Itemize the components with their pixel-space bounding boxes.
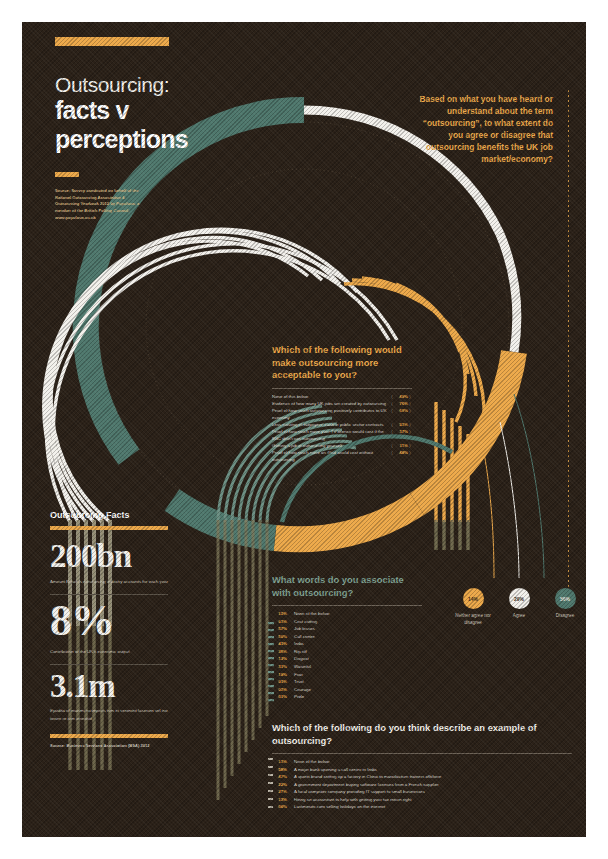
question-2-row: 31%Wasteful <box>272 663 422 671</box>
row-label: Evidence of how many UK jobs are created… <box>272 400 390 407</box>
fact-number-3: 3.1m <box>50 669 168 704</box>
row-percent: 13% <box>272 655 287 663</box>
row-label: Cost cutting <box>287 618 317 626</box>
bracket-close: ) <box>408 428 412 435</box>
question-3-row: 06%Lastminute.com selling holidays on th… <box>272 803 572 811</box>
question-3-row: 58%A major bank opening a call centre in… <box>272 766 572 774</box>
dotted-divider <box>568 90 569 600</box>
row-label: Rip off <box>287 648 307 656</box>
question-1-list: None of this below(49%)Evidence of how m… <box>272 393 412 463</box>
bracket-close: ) <box>408 393 412 400</box>
row-percent: 27% <box>272 788 287 796</box>
legend-item-2[interactable]: 56% Disagree <box>544 588 586 620</box>
question-2-heading: What words do you associate with outsour… <box>272 574 422 599</box>
headline-question: Based on what you have heard or understa… <box>407 94 553 166</box>
fact-number-1: 200bn <box>50 539 168 574</box>
question-3-panel: Which of the following do you think desc… <box>272 722 572 811</box>
row-percent: 03% <box>272 678 287 686</box>
question-3-row: 27%A local computer company providing IT… <box>272 788 572 796</box>
fact-caption-3: Epudita el maximi incimporis tem et veni… <box>50 707 168 721</box>
row-label: Hiring an accountant to help with gettin… <box>287 796 411 804</box>
title-rule <box>55 172 79 177</box>
bracket-close: ) <box>408 407 412 414</box>
question-1-row: Less wasting of taxpayers' cash in publi… <box>272 421 412 428</box>
row-percent: 57% <box>272 625 287 633</box>
row-label: None of the below <box>287 610 329 618</box>
question-1-row: Getting a job in outsourcing yourself(11… <box>272 442 412 449</box>
fact-caption-2: Contribution to the UK's economic output <box>50 648 168 655</box>
question-1-row: Proof of how much more your TV license w… <box>272 428 412 442</box>
row-label: Disgust <box>287 655 309 663</box>
source-note-top: Source: Survey conducted on behalf of th… <box>55 188 143 221</box>
facts-divider-1 <box>50 594 168 595</box>
row-label: Less wasting of taxpayers' cash in publi… <box>272 421 390 428</box>
row-label: Proof of how much outsourcing positively… <box>272 407 390 421</box>
question-2-row: 38%Rip off <box>272 648 422 656</box>
bracket-close: ) <box>408 449 412 456</box>
row-label: Job losses <box>287 625 315 633</box>
legend-item-0[interactable]: 14% Neither agree nor disagree <box>452 588 494 627</box>
row-label: Lastminute.com selling holidays on the i… <box>287 803 385 811</box>
bracket-close: ) <box>408 421 412 428</box>
question-2-row: 43%India <box>272 640 422 648</box>
legend-bubble-1: 29% <box>509 588 530 609</box>
fact-caption-1: Amount Britain's outsourcing industry ac… <box>50 578 168 585</box>
row-percent: 13% <box>272 796 287 804</box>
legend-label-2: Disagree <box>544 613 586 620</box>
row-label: A government department buying software … <box>287 781 439 789</box>
row-label: India <box>287 640 304 648</box>
question-1-heading: Which of the following would make outsou… <box>272 344 412 382</box>
outsourcing-facts-panel: Outsourcing Facts 200bn Amount Britain's… <box>50 510 168 749</box>
row-percent: 22% <box>272 781 287 789</box>
row-percent: 31% <box>272 663 287 671</box>
question-3-row: 22%A government department buying softwa… <box>272 781 572 789</box>
question-2-row: 12%None of the below <box>272 610 422 618</box>
row-label: Call centre <box>287 633 315 641</box>
legend-bubble-2: 56% <box>555 588 576 609</box>
bracket-close: ) <box>408 400 412 407</box>
facts-divider-2 <box>50 664 168 665</box>
row-percent: 02% <box>272 686 287 694</box>
row-percent: 06% <box>272 803 287 811</box>
question-2-row: 63%Cost cutting <box>272 618 422 626</box>
question-3-row: 47%A sports brand setting up a factory i… <box>272 773 572 781</box>
question-2-row: 56%Call centre <box>272 633 422 641</box>
row-percent: 56% <box>272 633 287 641</box>
question-2-divider <box>272 605 422 606</box>
legend-label-1: Agree <box>498 613 540 620</box>
question-3-heading: Which of the following do you think desc… <box>272 722 572 747</box>
question-2-row: 03%Trust <box>272 678 422 686</box>
title-line-3: perceptions <box>55 126 285 153</box>
row-percent: 37% <box>394 428 408 435</box>
legend-item-1[interactable]: 29% Agree <box>498 588 540 620</box>
row-percent: 53% <box>394 421 408 428</box>
top-accent-bar <box>55 37 169 46</box>
row-label: Pride <box>287 693 304 701</box>
row-percent: 01% <box>272 693 287 701</box>
title-line-2: facts v <box>55 97 285 124</box>
row-percent: 38% <box>272 648 287 656</box>
infographic-poster: Outsourcing: facts v perceptions Source:… <box>22 22 586 837</box>
row-label: Proof of how much more your TV license w… <box>272 428 390 442</box>
row-label: None of the below <box>287 758 329 766</box>
row-label: None of this below <box>272 393 390 400</box>
question-1-row: None of this below(49%) <box>272 393 412 400</box>
question-2-row: 18%Fear <box>272 671 422 679</box>
row-percent: 63% <box>272 618 287 626</box>
row-percent: 12% <box>272 610 287 618</box>
row-percent: 13% <box>272 758 287 766</box>
row-label: Fear <box>287 671 303 679</box>
row-percent: 11% <box>394 442 408 449</box>
page-title: Outsourcing: facts v perceptions <box>55 74 285 153</box>
question-3-row: 13%Hiring an accountant to help with get… <box>272 796 572 804</box>
row-label: Getting a job in outsourcing yourself <box>272 442 390 449</box>
question-2-row: 01%Pride <box>272 693 422 701</box>
legend-bubble-0: 14% <box>463 588 484 609</box>
row-percent: 58% <box>272 766 287 774</box>
facts-accent-bar <box>50 526 168 530</box>
row-percent: 18% <box>272 671 287 679</box>
question-2-row: 13%Disgust <box>272 655 422 663</box>
facts-source-note: Source: Business Services Association (B… <box>50 743 168 750</box>
question-2-row: 57%Job losses <box>272 625 422 633</box>
question-1-row: Proof of how much more an iPad would cos… <box>272 449 412 463</box>
